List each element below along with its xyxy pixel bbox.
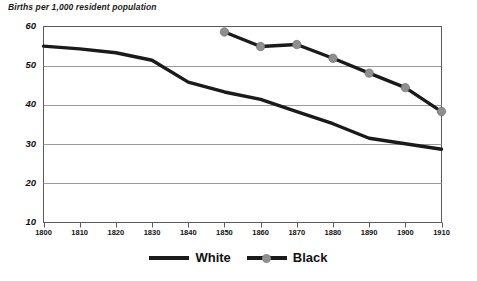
legend-item-black: Black [247, 250, 328, 265]
chart-legend: White Black [0, 250, 477, 265]
y-axis-tick-label: 10 [12, 216, 36, 227]
plot-frame [44, 27, 442, 223]
y-axis-tick-label: 50 [12, 59, 36, 70]
x-axis-tick-label: 1900 [385, 228, 425, 237]
plot-frame-rect [44, 27, 442, 223]
x-axis-tick-label: 1840 [168, 228, 208, 237]
chart-plot-area [0, 0, 477, 281]
legend-item-white: White [149, 250, 230, 265]
data-point-marker [256, 42, 264, 50]
y-axis-tick-label: 40 [12, 98, 36, 109]
data-point-marker [365, 69, 373, 77]
x-axis-tick-label: 1850 [204, 228, 244, 237]
x-axis-tick-label: 1810 [60, 228, 100, 237]
x-axis-tick-label: 1890 [349, 228, 389, 237]
data-point-marker [329, 54, 337, 62]
x-axis-tick-label: 1870 [277, 228, 317, 237]
data-point-marker [437, 107, 445, 115]
data-point-marker [401, 83, 409, 91]
x-axis-tick-label: 1830 [132, 228, 172, 237]
y-axis-tick-label: 20 [12, 177, 36, 188]
data-point-marker [220, 28, 228, 36]
x-axis-tick-label: 1860 [241, 228, 281, 237]
x-axis-tick-label: 1800 [24, 228, 64, 237]
data-point-marker [293, 40, 301, 48]
legend-swatch-marker-line-icon [247, 252, 287, 264]
x-axis-tick-label: 1820 [96, 228, 136, 237]
x-axis-ticks [45, 223, 443, 228]
x-axis-tick-label: 1880 [313, 228, 353, 237]
x-axis-tick-label: 1910 [422, 228, 462, 237]
legend-swatch-line-icon [149, 252, 189, 264]
legend-label-black: Black [293, 250, 328, 265]
legend-label-white: White [195, 250, 230, 265]
y-axis-tick-label: 60 [12, 20, 36, 31]
y-axis-tick-label: 30 [12, 138, 36, 149]
chart-container: Births per 1,000 resident population 605… [0, 0, 477, 281]
